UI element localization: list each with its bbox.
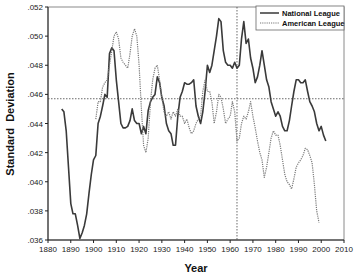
x-tick-label: 1970 [244, 245, 262, 254]
legend-label-american: American League [282, 19, 345, 28]
x-tick-label: 1920 [130, 245, 148, 254]
chart-background [0, 0, 357, 279]
x-tick-label: 2000 [312, 245, 330, 254]
x-tick-label: 1930 [153, 245, 171, 254]
y-tick-label: .052 [27, 3, 43, 12]
y-tick-label: .036 [27, 236, 43, 245]
x-axis-title: Year [184, 262, 208, 274]
x-tick-label: 1980 [267, 245, 285, 254]
x-tick-label: 1990 [290, 245, 308, 254]
y-tick-label: .038 [27, 207, 43, 216]
legend: National League American League [256, 6, 345, 30]
line-chart: .036.038.040.042.044.046.048.050.052 188… [0, 0, 357, 279]
x-tick-label: 1960 [221, 245, 239, 254]
x-tick-label: 1900 [85, 245, 103, 254]
x-tick-label: 1940 [176, 245, 194, 254]
y-axis-title: Standard Deviation [4, 72, 16, 176]
y-tick-label: .040 [27, 178, 43, 187]
legend-label-national: National League [282, 9, 340, 18]
x-tick-label: 2010 [335, 245, 353, 254]
x-tick-label: 1950 [198, 245, 216, 254]
y-tick-label: .050 [27, 32, 43, 41]
y-tick-label: .048 [27, 61, 43, 70]
y-tick-label: .046 [27, 90, 43, 99]
x-tick-label: 1890 [62, 245, 80, 254]
x-tick-label: 1880 [39, 245, 57, 254]
x-tick-label: 1910 [107, 245, 125, 254]
y-tick-label: .042 [27, 149, 43, 158]
y-tick-label: .044 [27, 120, 43, 129]
